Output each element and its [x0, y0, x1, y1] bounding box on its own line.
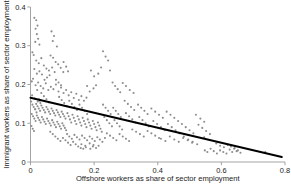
data-point: [93, 75, 95, 77]
data-point: [63, 102, 65, 104]
data-point: [115, 110, 117, 112]
data-point: [57, 90, 59, 92]
data-point: [40, 92, 42, 94]
data-point: [164, 140, 166, 142]
data-point: [95, 147, 97, 149]
data-point: [35, 84, 37, 86]
data-point: [31, 113, 33, 115]
data-point: [101, 141, 103, 143]
data-point: [89, 142, 91, 144]
data-point: [94, 140, 96, 142]
data-point: [204, 149, 206, 151]
data-point: [98, 145, 100, 147]
data-point: [173, 117, 175, 119]
data-point: [81, 107, 83, 109]
data-point: [122, 135, 124, 137]
data-point: [31, 104, 33, 106]
data-point: [41, 73, 43, 75]
data-point: [156, 123, 158, 125]
data-point: [82, 117, 84, 119]
data-point: [169, 114, 171, 116]
data-point: [71, 138, 73, 140]
data-point: [141, 119, 143, 121]
data-point: [78, 99, 80, 101]
y-tick-label: 0.1: [15, 119, 25, 128]
data-point: [108, 122, 110, 124]
data-point: [162, 117, 164, 119]
data-point: [84, 137, 86, 139]
data-point: [112, 107, 114, 109]
data-point: [119, 125, 121, 127]
data-point: [234, 147, 236, 149]
data-point: [85, 97, 87, 99]
data-point: [80, 125, 82, 127]
data-point: [239, 152, 241, 154]
data-point: [82, 148, 84, 150]
data-point: [68, 94, 70, 96]
data-point: [36, 73, 38, 75]
data-point: [93, 123, 95, 125]
data-point: [35, 28, 37, 30]
data-point: [52, 88, 54, 90]
data-point: [76, 136, 78, 138]
data-point: [77, 115, 79, 117]
data-point: [60, 87, 62, 89]
data-point: [64, 139, 66, 141]
data-point: [83, 120, 85, 122]
data-point: [43, 79, 45, 81]
data-point: [86, 139, 88, 141]
data-point: [61, 111, 63, 113]
data-point: [74, 120, 76, 122]
data-point: [33, 17, 35, 19]
x-tick-label: 0: [28, 166, 32, 175]
data-point: [121, 128, 123, 130]
data-point: [32, 128, 34, 130]
data-point: [42, 87, 44, 89]
data-point: [40, 104, 42, 106]
data-point: [103, 116, 105, 118]
data-point: [35, 19, 37, 21]
data-point: [61, 122, 63, 124]
data-point: [43, 95, 45, 97]
data-point: [166, 111, 168, 113]
data-point: [89, 90, 91, 92]
data-point: [63, 92, 65, 94]
data-point: [41, 116, 43, 118]
data-point: [205, 130, 207, 132]
data-point: [147, 130, 149, 132]
data-point: [85, 126, 87, 128]
data-point: [100, 66, 102, 68]
data-point: [91, 128, 93, 130]
data-point: [195, 114, 197, 116]
data-point: [225, 152, 227, 154]
data-point: [52, 121, 54, 123]
data-point: [63, 125, 65, 127]
data-point: [99, 128, 101, 130]
data-point: [59, 116, 61, 118]
data-point: [86, 85, 88, 87]
data-point: [68, 135, 70, 137]
data-point: [107, 110, 109, 112]
data-point: [33, 54, 35, 56]
data-point: [33, 118, 35, 120]
data-point: [49, 74, 51, 76]
data-point: [30, 101, 32, 103]
data-point: [67, 142, 69, 144]
data-point: [50, 86, 52, 88]
data-point: [55, 61, 57, 63]
y-tick-label: 0.3: [15, 41, 25, 50]
data-point: [56, 109, 58, 111]
data-point: [133, 92, 135, 94]
data-point: [94, 126, 96, 128]
data-point: [69, 118, 71, 120]
data-point: [68, 100, 70, 102]
data-point: [60, 128, 62, 130]
data-point: [65, 129, 67, 131]
data-point: [31, 94, 33, 96]
x-tick-label: 0.8: [280, 166, 290, 175]
data-point: [88, 121, 90, 123]
data-point: [35, 120, 37, 122]
data-point: [52, 133, 54, 135]
data-point: [38, 62, 40, 64]
data-point: [138, 116, 140, 118]
